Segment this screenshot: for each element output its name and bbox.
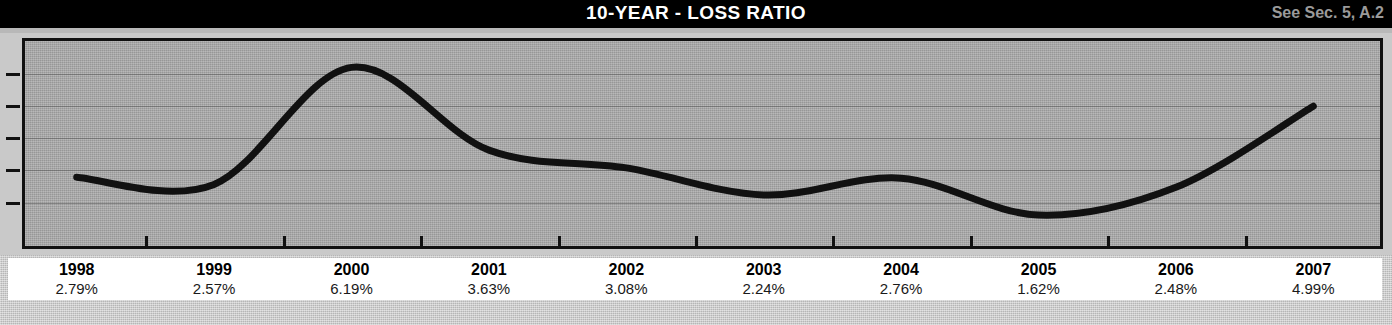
x-axis-tick — [420, 236, 423, 248]
x-axis-tick — [832, 236, 835, 248]
year-label: 2000 — [283, 260, 420, 280]
x-axis-tick — [145, 236, 148, 248]
loss-ratio-chart-panel: 10-YEAR - LOSS RATIO See Sec. 5, A.2 199… — [0, 0, 1392, 325]
section-reference-note: See Sec. 5, A.2 — [1272, 4, 1384, 22]
chart-header-bar: 10-YEAR - LOSS RATIO See Sec. 5, A.2 — [0, 0, 1392, 28]
year-label: 1999 — [145, 260, 282, 280]
loss-ratio-value: 3.08% — [558, 280, 695, 298]
year-label-cell: 20023.08% — [558, 258, 695, 300]
year-label: 2004 — [832, 260, 969, 280]
loss-ratio-value: 3.63% — [420, 280, 557, 298]
year-label: 2003 — [695, 260, 832, 280]
year-label: 2006 — [1107, 260, 1244, 280]
y-axis-tick — [6, 73, 20, 76]
plot-area — [22, 38, 1382, 249]
loss-ratio-value: 2.76% — [832, 280, 969, 298]
loss-ratio-value: 6.19% — [283, 280, 420, 298]
year-label-cell: 19992.57% — [145, 258, 282, 300]
year-label-cell: 20013.63% — [420, 258, 557, 300]
year-label-cell: 19982.79% — [8, 258, 145, 300]
y-axis-tick — [6, 202, 20, 205]
gridline — [25, 138, 1380, 139]
year-label-cell: 20062.48% — [1107, 258, 1244, 300]
x-axis-tick — [1245, 236, 1248, 248]
loss-ratio-value: 2.57% — [145, 280, 282, 298]
year-label: 2001 — [420, 260, 557, 280]
loss-ratio-value: 2.48% — [1107, 280, 1244, 298]
x-axis-tick — [283, 236, 286, 248]
page-title: 10-YEAR - LOSS RATIO — [0, 2, 1392, 24]
year-label: 1998 — [8, 260, 145, 280]
bottom-padding — [0, 300, 1392, 325]
y-axis-tick — [6, 137, 20, 140]
y-axis-tick — [6, 169, 20, 172]
loss-ratio-value: 2.79% — [8, 280, 145, 298]
year-label: 2005 — [970, 260, 1107, 280]
year-label-cell: 20074.99% — [1245, 258, 1382, 300]
year-label-cell: 20006.19% — [283, 258, 420, 300]
gridline — [25, 170, 1380, 171]
x-axis-tick — [695, 236, 698, 248]
year-label-cell: 20042.76% — [832, 258, 969, 300]
x-axis-tick — [558, 236, 561, 248]
x-axis-tick — [970, 236, 973, 248]
gridline — [25, 106, 1380, 107]
y-axis-right — [1380, 38, 1383, 249]
gridline — [25, 203, 1380, 204]
year-label: 2002 — [558, 260, 695, 280]
plot-wrapper — [0, 33, 1392, 255]
loss-ratio-value: 2.24% — [695, 280, 832, 298]
year-label: 2007 — [1245, 260, 1382, 280]
year-label-cell: 20032.24% — [695, 258, 832, 300]
year-label-cell: 20051.62% — [970, 258, 1107, 300]
y-axis-tick — [6, 105, 20, 108]
x-axis-tick — [1107, 236, 1110, 248]
loss-ratio-value: 1.62% — [970, 280, 1107, 298]
gridline — [25, 74, 1380, 75]
loss-ratio-value: 4.99% — [1245, 280, 1382, 298]
